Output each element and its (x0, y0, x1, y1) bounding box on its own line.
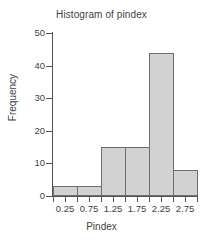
x-axis-tick (173, 197, 174, 202)
plot-area (53, 33, 197, 196)
x-axis-tick (185, 197, 186, 202)
x-axis-tick-label: 2.75 (168, 203, 202, 214)
y-axis-tick (46, 131, 53, 132)
y-axis-tick (46, 196, 53, 197)
x-axis-tick (89, 197, 90, 202)
chart-title: Histogram of pindex (0, 9, 203, 20)
x-axis-tick (53, 197, 54, 202)
y-axis-tick (46, 66, 53, 67)
y-axis-tick-label: 30 (15, 92, 45, 103)
x-axis-tick (197, 197, 198, 202)
histogram-bar (101, 147, 126, 196)
histogram-bar (53, 186, 78, 196)
y-axis-tick-label: 50 (15, 27, 45, 38)
histogram-bar (125, 147, 150, 196)
y-axis-tick (46, 98, 53, 99)
histogram-figure: Histogram of pindex Frequency Pindex 010… (0, 0, 203, 247)
y-axis-tick-label: 40 (15, 60, 45, 71)
y-axis-tick-label: 0 (15, 190, 45, 201)
x-axis-tick (101, 197, 102, 202)
histogram-bar (149, 53, 174, 196)
x-axis-tick (65, 197, 66, 202)
x-axis-tick (113, 197, 114, 202)
y-axis-tick (46, 33, 53, 34)
x-axis-tick (125, 197, 126, 202)
x-axis-tick (77, 197, 78, 202)
y-axis-tick (46, 163, 53, 164)
x-axis-tick (137, 197, 138, 202)
y-axis-tick-label: 20 (15, 125, 45, 136)
x-axis-tick (161, 197, 162, 202)
y-axis-tick-label: 10 (15, 157, 45, 168)
x-axis-label: Pindex (0, 221, 203, 232)
histogram-bar (77, 186, 102, 196)
x-axis-tick (149, 197, 150, 202)
histogram-bar (173, 170, 198, 196)
